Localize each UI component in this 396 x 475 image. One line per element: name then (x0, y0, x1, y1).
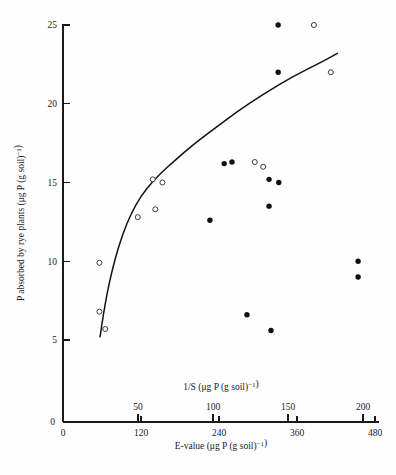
x-axis-bottom-label: E-value (μg P (g soil)−1) (175, 438, 267, 452)
data-point (276, 180, 281, 185)
data-point (355, 259, 360, 264)
data-point (97, 260, 102, 265)
y-tick-label: 20 (48, 99, 58, 109)
x-tick-group: 01202403604800 (50, 416, 382, 438)
x-tick-label: 120 (134, 428, 149, 438)
data-point (222, 161, 227, 166)
data-point (252, 160, 257, 165)
y-tick-label: 25 (48, 20, 58, 30)
x-tick-top-label: 200 (356, 402, 371, 412)
x-tick-top-label: 100 (206, 402, 221, 412)
x-tick-label: 0 (61, 428, 66, 438)
x-tick-label: 480 (368, 428, 383, 438)
fitted-curve-path (100, 53, 337, 337)
data-point (355, 274, 360, 279)
y-axis-label: P absorbed by rye plants (μg P (g soil)−… (13, 145, 27, 301)
data-point (261, 164, 266, 169)
x-tick-label: 240 (212, 428, 227, 438)
data-point (103, 326, 108, 331)
data-point (266, 203, 271, 208)
y-tick-group: 510152025 (48, 20, 71, 345)
data-point (328, 70, 333, 75)
y-tick-label: 10 (48, 257, 58, 267)
data-point (150, 177, 155, 182)
y-axis: 510152025 (48, 20, 71, 422)
data-point (275, 70, 280, 75)
data-point (160, 180, 165, 185)
y-tick-label: 15 (48, 178, 58, 188)
data-point (244, 312, 249, 317)
data-point (266, 177, 271, 182)
data-point (207, 218, 212, 223)
x-axis-bottom: 01202403604800 (50, 416, 382, 438)
y-tick-label: 5 (52, 335, 57, 345)
x-axis-top-label: 1/S (μg P (g soil)−1) (183, 379, 259, 393)
figure-container: 510152025 01202403604800 50100150200 1/S… (0, 0, 396, 475)
x-tick-top-label: 50 (133, 402, 143, 412)
data-point (135, 215, 140, 220)
data-point (311, 23, 316, 28)
x-tick-top-label: 150 (281, 402, 296, 412)
data-point (268, 328, 273, 333)
data-point (229, 159, 234, 164)
origin-label: 0 (50, 417, 55, 427)
data-point (275, 22, 280, 27)
open-circle-series (97, 23, 333, 332)
data-point (97, 309, 102, 314)
data-point (153, 207, 158, 212)
x-axis-top-secondary: 50100150200 (133, 402, 370, 422)
x-tick-top-group: 50100150200 (133, 402, 370, 422)
scatter-plot: 510152025 01202403604800 50100150200 1/S… (0, 0, 396, 475)
filled-circle-series (207, 22, 361, 333)
x-tick-label: 360 (290, 428, 305, 438)
